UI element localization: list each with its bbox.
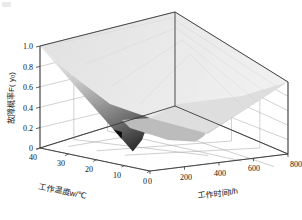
time-tick-label: 0 (148, 177, 152, 186)
z-tick-marks (36, 46, 40, 149)
temperature-tick-label: 0 (143, 177, 147, 186)
temperature-tick-label: 40 (29, 153, 37, 162)
time-tick-label: 200 (180, 173, 192, 182)
z-tick-label: 0.4 (23, 104, 33, 113)
z-tick-label: 0 (29, 144, 33, 153)
temperature-tick-label: 30 (57, 159, 65, 168)
time-tick-label: 800 (290, 160, 302, 169)
z-tick-label: 0.2 (23, 124, 33, 133)
z-tick-label: 0.8 (23, 63, 33, 72)
time-tick-label: 600 (248, 164, 260, 173)
z-tick-label: 0.6 (23, 83, 33, 92)
temperature-axis-title: 工作温度w/℃ (38, 181, 88, 200)
time-axis-title: 工作时间t/h (197, 186, 239, 201)
z-axis-title: 故障概率F( y₀) (6, 72, 16, 124)
z-tick-labels: 0 0.2 0.4 0.6 0.8 1.0 (23, 42, 33, 153)
time-tick-label: 400 (214, 169, 226, 178)
z-tick-label: 1.0 (23, 42, 33, 51)
surface-plot-figure: 0 0.2 0.4 0.6 0.8 1.0 40 30 20 10 0 0 20… (0, 0, 302, 220)
temperature-tick-label: 20 (85, 165, 93, 174)
temperature-tick-label: 10 (113, 171, 121, 180)
